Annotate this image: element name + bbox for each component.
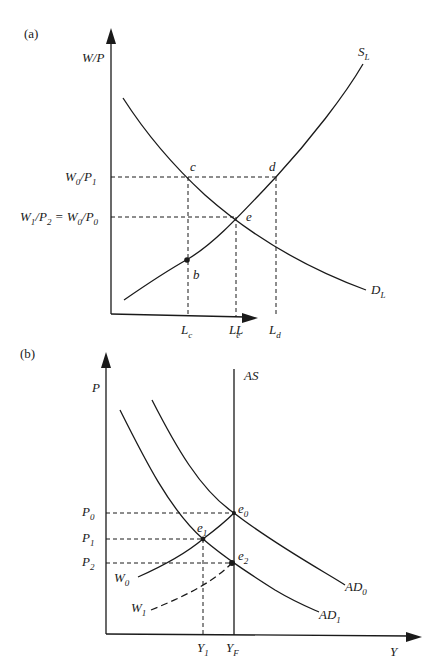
panel-a-y-label: W/P [82, 50, 104, 65]
x-tick-ld: Ld [268, 322, 281, 340]
w1-label: W1 [131, 600, 146, 618]
diagram-canvas: (a) W/P L SL DL c d e b W0/P1 W1/P2 = W0… [0, 0, 439, 660]
w1-curve [151, 563, 232, 610]
ad1-label: AD1 [318, 607, 341, 625]
panel-b-y-arrow-icon [101, 352, 111, 368]
point-d-label: d [269, 159, 276, 174]
point-e0-label: e0 [238, 501, 249, 519]
y-tick-p1: P1 [81, 530, 94, 548]
y-tick-w0p1: W0/P1 [65, 169, 96, 187]
as-label: AS [243, 368, 259, 383]
sl-label: SL [358, 44, 370, 62]
point-e2-marker [229, 560, 235, 566]
point-e0-marker [232, 511, 236, 515]
ad1-curve [120, 410, 319, 612]
point-e2-label: e2 [238, 548, 249, 566]
x-tick-y1: Y1 [197, 640, 209, 658]
x-tick-yf: YF [226, 640, 239, 658]
panel-b-x-axis [106, 634, 410, 636]
ad0-label: AD0 [344, 579, 367, 597]
panel-a-x-axis [111, 314, 246, 317]
ad0-curve [152, 400, 345, 585]
w0-curve [138, 513, 234, 577]
x-tick-lc: Lc [180, 322, 192, 340]
panel-b-tag: (b) [20, 346, 35, 361]
y-tick-p2: P2 [81, 554, 95, 572]
panel-b-x-label: Y [390, 644, 399, 659]
w0-label: W0 [114, 570, 130, 588]
y-tick-w1p2-eq-w0p0: W1/P2 = W0/P0 [20, 209, 99, 227]
point-b-label: b [193, 267, 200, 282]
panel-b-x-arrow-icon [406, 632, 422, 642]
panel-b: (b) P Y AS AD0 AD1 W0 W1 e0 [20, 346, 422, 659]
y-tick-p0: P0 [81, 504, 95, 522]
point-b-marker [184, 257, 190, 263]
panel-b-y-label: P [91, 380, 100, 395]
point-e-label: e [246, 209, 252, 224]
panel-a-tag: (a) [24, 26, 38, 41]
panel-a: (a) W/P L SL DL c d e b W0/P1 W1/P2 = W0… [20, 26, 385, 340]
panel-a-y-arrow-icon [106, 28, 116, 44]
point-c-label: c [190, 159, 196, 174]
supply-curve-sl [124, 64, 363, 300]
dl-label: DL [370, 282, 385, 300]
demand-curve-dl [123, 98, 366, 290]
panel-a-x-arrow-icon [242, 313, 258, 323]
